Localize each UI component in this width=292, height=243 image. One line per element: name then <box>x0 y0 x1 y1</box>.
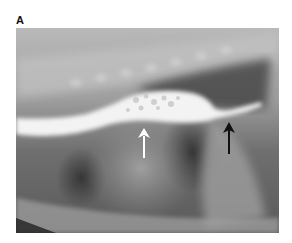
panel-label: A <box>16 14 24 26</box>
radiograph-image <box>16 28 279 233</box>
